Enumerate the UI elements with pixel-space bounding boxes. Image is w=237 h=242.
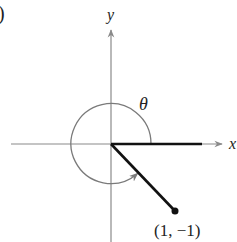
terminal-side [111, 144, 175, 211]
x-axis-label: x [228, 135, 236, 152]
part-label: ) [0, 2, 5, 25]
angle-diagram: ) y x θ (1, −1) [0, 0, 237, 242]
y-axis-label: y [105, 6, 115, 24]
point-label: (1, −1) [154, 221, 200, 240]
theta-label: θ [139, 94, 148, 114]
point-marker [172, 208, 179, 215]
